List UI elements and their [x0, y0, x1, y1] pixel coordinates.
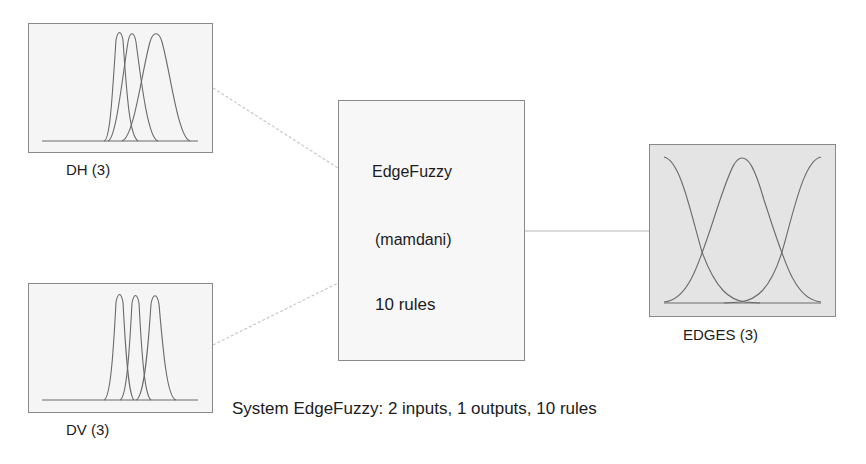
edges-mf-high [724, 157, 821, 303]
dh-mf-3 [122, 34, 190, 141]
membership-curves [0, 0, 866, 464]
edges-mf-low [664, 157, 760, 303]
system-summary: System EdgeFuzzy: 2 inputs, 1 outputs, 1… [232, 399, 597, 419]
dv-mf-2 [120, 296, 151, 401]
edges-mf-medium [664, 158, 821, 302]
